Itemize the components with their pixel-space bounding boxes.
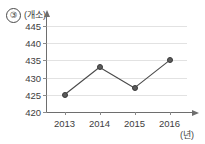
x-tick: [170, 112, 171, 115]
data-point: [97, 64, 103, 70]
item-number-badge: ③: [6, 8, 21, 23]
data-point: [167, 57, 173, 63]
y-tick-label: 435: [25, 55, 41, 66]
y-tick: [43, 112, 47, 113]
plot-area: 420425430435440445 2013201420152016: [47, 26, 187, 112]
x-axis-unit-label: (년): [180, 128, 194, 141]
x-tick: [65, 112, 66, 115]
x-tick: [135, 112, 136, 115]
y-tick-label: 420: [25, 107, 41, 118]
x-axis-line: [46, 112, 193, 113]
y-tick-label: 445: [25, 21, 41, 32]
x-tick-label: 2015: [124, 118, 145, 129]
y-tick-label: 425: [25, 89, 41, 100]
y-tick-label: 440: [25, 38, 41, 49]
x-tick-label: 2016: [159, 118, 180, 129]
data-point: [132, 85, 138, 91]
chart-figure: ③ (개소) 420425430435440445 20132014201520…: [0, 0, 205, 144]
y-axis-arrow-icon: [44, 10, 50, 17]
x-axis-arrow-icon: [192, 110, 199, 116]
x-tick: [100, 112, 101, 115]
y-tick-label: 430: [25, 72, 41, 83]
x-tick-label: 2014: [89, 118, 110, 129]
series-line: [47, 26, 187, 112]
x-tick-label: 2013: [54, 118, 75, 129]
data-point: [62, 92, 68, 98]
